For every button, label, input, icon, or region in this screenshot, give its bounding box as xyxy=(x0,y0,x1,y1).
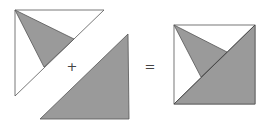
diagram-canvas: + = xyxy=(0,0,269,124)
diagram-svg xyxy=(0,0,269,124)
result-figure xyxy=(174,25,255,104)
plus-operator: + xyxy=(67,60,78,73)
equals-operator: = xyxy=(145,60,156,73)
